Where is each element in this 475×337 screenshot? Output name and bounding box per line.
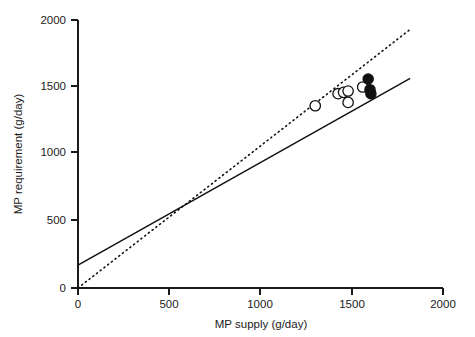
- y-tick-label-0: 0: [60, 282, 66, 294]
- x-tick-label-1000: 1000: [247, 298, 273, 310]
- plot-svg: 0 500 1000 1500 2000 MP requirement (g/d…: [0, 0, 475, 337]
- y-tick-label-1500: 1500: [40, 80, 66, 92]
- x-tick-label-2000: 2000: [430, 298, 456, 310]
- x-tick-label-500: 500: [159, 298, 178, 310]
- y-axis-title: MP requirement (g/day): [12, 94, 24, 215]
- scatter-plot-figure: 0 500 1000 1500 2000 MP requirement (g/d…: [0, 0, 475, 337]
- x-tick-label-1500: 1500: [339, 298, 365, 310]
- data-point-filled: [363, 74, 373, 84]
- x-tick-label-0: 0: [75, 298, 81, 310]
- y-tick-label-1000: 1000: [40, 146, 66, 158]
- data-point-open: [343, 97, 353, 107]
- y-tick-label-500: 500: [47, 214, 66, 226]
- plot-background: [0, 0, 475, 337]
- data-point-filled: [366, 89, 376, 99]
- y-tick-label-2000: 2000: [40, 14, 66, 26]
- data-point-open: [343, 86, 353, 96]
- data-point-open: [310, 101, 320, 111]
- x-axis-title: MP supply (g/day): [215, 318, 308, 330]
